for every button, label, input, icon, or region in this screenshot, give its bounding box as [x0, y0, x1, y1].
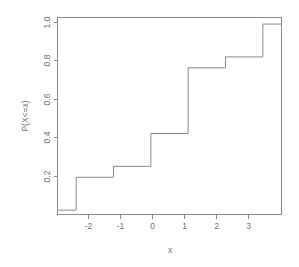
y-ticklabel-5: 0.2 — [42, 170, 52, 182]
y-axis-label: P(X<=x) — [20, 100, 30, 131]
x-ticklabel-5: 2 — [214, 221, 219, 231]
cdf-step-chart: 1.0 0.8 0.6 0.4 0.2 P(X<=x) -2 -1 0 1 2 … — [0, 0, 299, 267]
x-ticklabel-2: -1 — [117, 221, 125, 231]
x-ticklabel-6: 3 — [246, 221, 251, 231]
chart-root: 1.0 0.8 0.6 0.4 0.2 P(X<=x) -2 -1 0 1 2 … — [0, 0, 299, 267]
y-ticklabel-4: 0.4 — [42, 131, 52, 143]
y-ticklabel-3: 0.6 — [42, 93, 52, 105]
x-ticklabel-3: 0 — [150, 221, 155, 231]
x-ticklabel-1: -2 — [85, 221, 93, 231]
x-ticklabel-4: 1 — [182, 221, 187, 231]
y-ticklabel-1: 1.0 — [42, 16, 52, 28]
y-ticklabel-2: 0.8 — [42, 54, 52, 66]
